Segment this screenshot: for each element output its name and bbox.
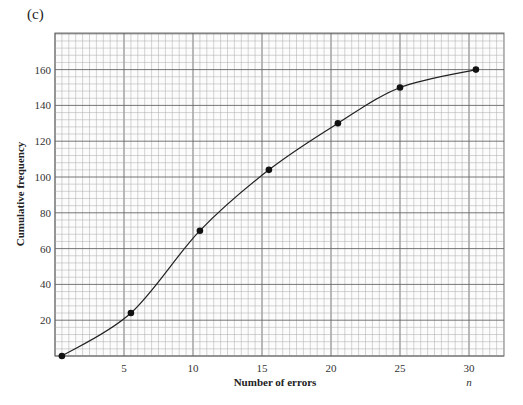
cumulative-frequency-chart: 20406080100120140160 51015202530 Number …: [0, 0, 523, 405]
data-point-marker: [397, 84, 404, 91]
y-tick-label: 80: [40, 207, 52, 219]
x-axis-label: Number of errors: [234, 376, 317, 388]
y-tick-label: 60: [40, 243, 52, 255]
data-point-marker: [128, 310, 135, 317]
y-tick-label: 160: [35, 64, 52, 76]
y-axis-label: Cumulative frequency: [14, 141, 26, 246]
x-tick-label: 20: [326, 362, 338, 374]
data-point-marker: [473, 66, 480, 73]
y-tick-label: 120: [35, 135, 52, 147]
y-axis-ticks: 20406080100120140160: [35, 64, 52, 327]
data-point-marker: [197, 227, 204, 234]
y-tick-label: 40: [40, 278, 52, 290]
data-point-marker: [59, 353, 66, 360]
graph-paper-grid: [55, 33, 504, 356]
y-tick-label: 140: [35, 99, 52, 111]
x-tick-label: 5: [121, 362, 127, 374]
data-point-marker: [266, 167, 273, 174]
x-tick-label: 25: [395, 362, 407, 374]
x-axis-ticks: 51015202530: [121, 362, 475, 374]
x-tick-label: 30: [464, 362, 476, 374]
x-variable-label: n: [466, 376, 472, 388]
x-tick-label: 10: [188, 362, 200, 374]
data-point-marker: [335, 120, 342, 127]
y-tick-label: 20: [40, 314, 52, 326]
y-tick-label: 100: [35, 171, 52, 183]
x-tick-label: 15: [257, 362, 269, 374]
